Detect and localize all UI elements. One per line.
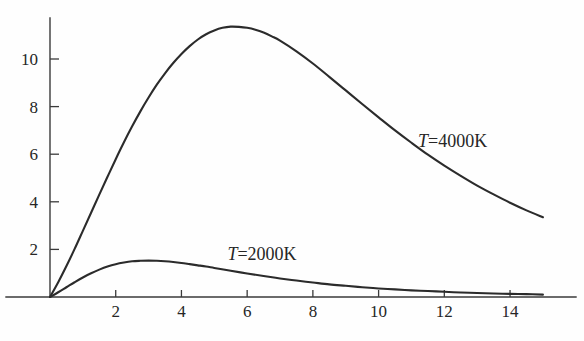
series-label-2000k-variable: T [227,244,237,264]
x-tick-label-2: 2 [111,302,120,321]
chart-plot-area: 2468101214 246810 [0,0,584,341]
x-tick-label-14: 14 [502,302,520,321]
y-tick-label-2: 2 [30,240,39,259]
x-axis-tick-labels: 2468101214 [111,302,519,321]
y-tick-label-6: 6 [30,145,39,164]
series-label-4000k: T=4000K [418,132,487,150]
y-axis-ticks [50,59,59,249]
series-label-4000k-value: =4000K [428,131,487,151]
x-tick-label-6: 6 [243,302,252,321]
y-tick-label-4: 4 [30,193,39,212]
y-tick-label-8: 8 [30,98,39,117]
y-tick-label-10: 10 [21,50,38,69]
series-label-2000k: T=2000K [227,245,296,263]
x-tick-label-4: 4 [177,302,186,321]
curve-2000k [50,261,543,297]
series-label-4000k-variable: T [418,131,428,151]
series-label-2000k-value: =2000K [237,244,296,264]
x-tick-label-12: 12 [436,302,453,321]
x-tick-label-10: 10 [370,302,387,321]
x-tick-label-8: 8 [309,302,318,321]
y-axis-tick-labels: 246810 [21,50,39,259]
blackbody-radiation-chart: 2468101214 246810 T=4000K T=2000K [0,0,584,341]
